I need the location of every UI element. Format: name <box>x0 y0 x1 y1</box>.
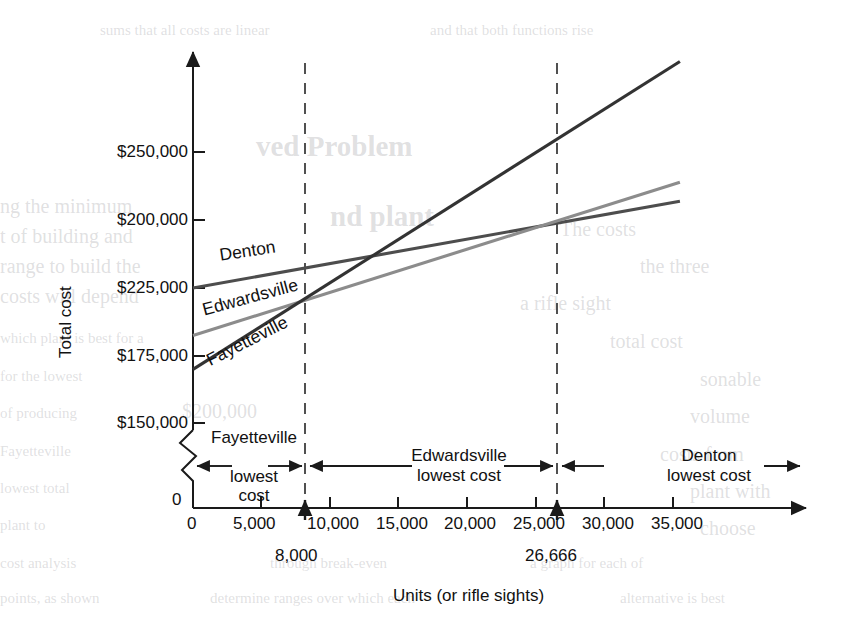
zone-denton-line2: lowest cost <box>655 466 763 486</box>
zone-denton-line1: Denton <box>655 446 763 466</box>
x-tick-label-35000: 35,000 <box>651 514 703 534</box>
breakeven-dashed-lines <box>305 63 557 508</box>
zone-fayetteville-line1: Fayetteville <box>200 428 308 448</box>
x-tick-label-30000: 30,000 <box>582 514 634 534</box>
breakeven-label-8000: 8,000 <box>275 546 318 566</box>
zone-fayetteville-line3: cost <box>200 486 308 506</box>
zone-label-denton: Denton lowest cost <box>655 446 763 485</box>
zone-edwardsville-line2: lowest cost <box>403 466 515 486</box>
y-axis-title: Total cost <box>56 286 76 358</box>
axis-break-zigzag <box>180 430 196 508</box>
x-tick-label-10000: 10,000 <box>307 514 359 534</box>
zone-label-fayetteville: Fayetteville lowest cost <box>200 428 308 506</box>
cost-volume-plot <box>0 0 857 639</box>
y-tick-label-175000: $175,000 <box>72 346 188 366</box>
x-tick-label-5000: 5,000 <box>233 514 276 534</box>
zone-edwardsville-line1: Edwardsville <box>403 446 515 466</box>
x-tick-label-0: 0 <box>187 514 196 534</box>
x-tick-label-15000: 15,000 <box>376 514 428 534</box>
y-tick-label-225000: $200,000 <box>72 210 188 230</box>
x-tick-label-25000: 25,000 <box>513 514 565 534</box>
y-tick-label-250000: $250,000 <box>72 142 188 162</box>
x-axis-title: Units (or rifle sights) <box>393 586 544 606</box>
zone-fayetteville-line2: lowest <box>200 467 308 487</box>
breakeven-label-26666: 26,666 <box>525 546 577 566</box>
chart-canvas: ved Problemnd plantng the minimumt of bu… <box>0 0 857 639</box>
x-tick-label-20000: 20,000 <box>444 514 496 534</box>
zone-label-edwardsville: Edwardsville lowest cost <box>403 446 515 485</box>
y-origin-label: 0 <box>172 490 181 510</box>
y-tick-label-150000: $150,000 <box>72 413 188 433</box>
y-tick-label-200000: $225,000 <box>72 278 188 298</box>
